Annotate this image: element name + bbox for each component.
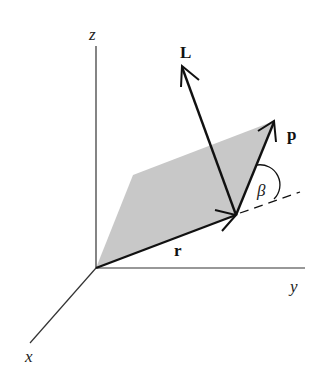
vector-diagram: z y x L p r β: [0, 0, 331, 383]
r-p-plane: [96, 121, 274, 268]
r-extension-dashed: [240, 192, 300, 213]
p-vector-label: p: [287, 125, 296, 144]
beta-angle-label: β: [256, 181, 266, 200]
z-axis-label: z: [88, 25, 96, 44]
x-axis: [30, 268, 96, 343]
r-vector-label: r: [174, 241, 182, 260]
L-vector-label: L: [180, 43, 191, 62]
x-axis-label: x: [24, 347, 33, 366]
y-axis-label: y: [288, 277, 298, 296]
